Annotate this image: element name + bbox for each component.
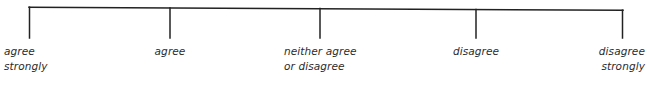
scale-label-line: disagree bbox=[426, 44, 526, 59]
scale-label-line: strongly bbox=[4, 59, 48, 74]
scale-label-agree: agree bbox=[120, 44, 220, 59]
likert-scale-figure: agree strongly agree neither agree or di… bbox=[0, 0, 647, 86]
scale-label-line: disagree bbox=[599, 44, 645, 59]
scale-label-disagree-strongly: disagree strongly bbox=[599, 44, 645, 74]
scale-label-line: strongly bbox=[599, 59, 645, 74]
scale-label-disagree: disagree bbox=[426, 44, 526, 59]
scale-label-line: neither agree bbox=[284, 44, 357, 59]
axis-baseline bbox=[29, 7, 623, 10]
scale-label-line: or disagree bbox=[284, 59, 357, 74]
scale-label-agree-strongly: agree strongly bbox=[4, 44, 48, 74]
scale-label-line: agree bbox=[120, 44, 220, 59]
scale-label-line: agree bbox=[4, 44, 48, 59]
scale-label-neither-agree-or-disagree: neither agree or disagree bbox=[284, 44, 357, 74]
